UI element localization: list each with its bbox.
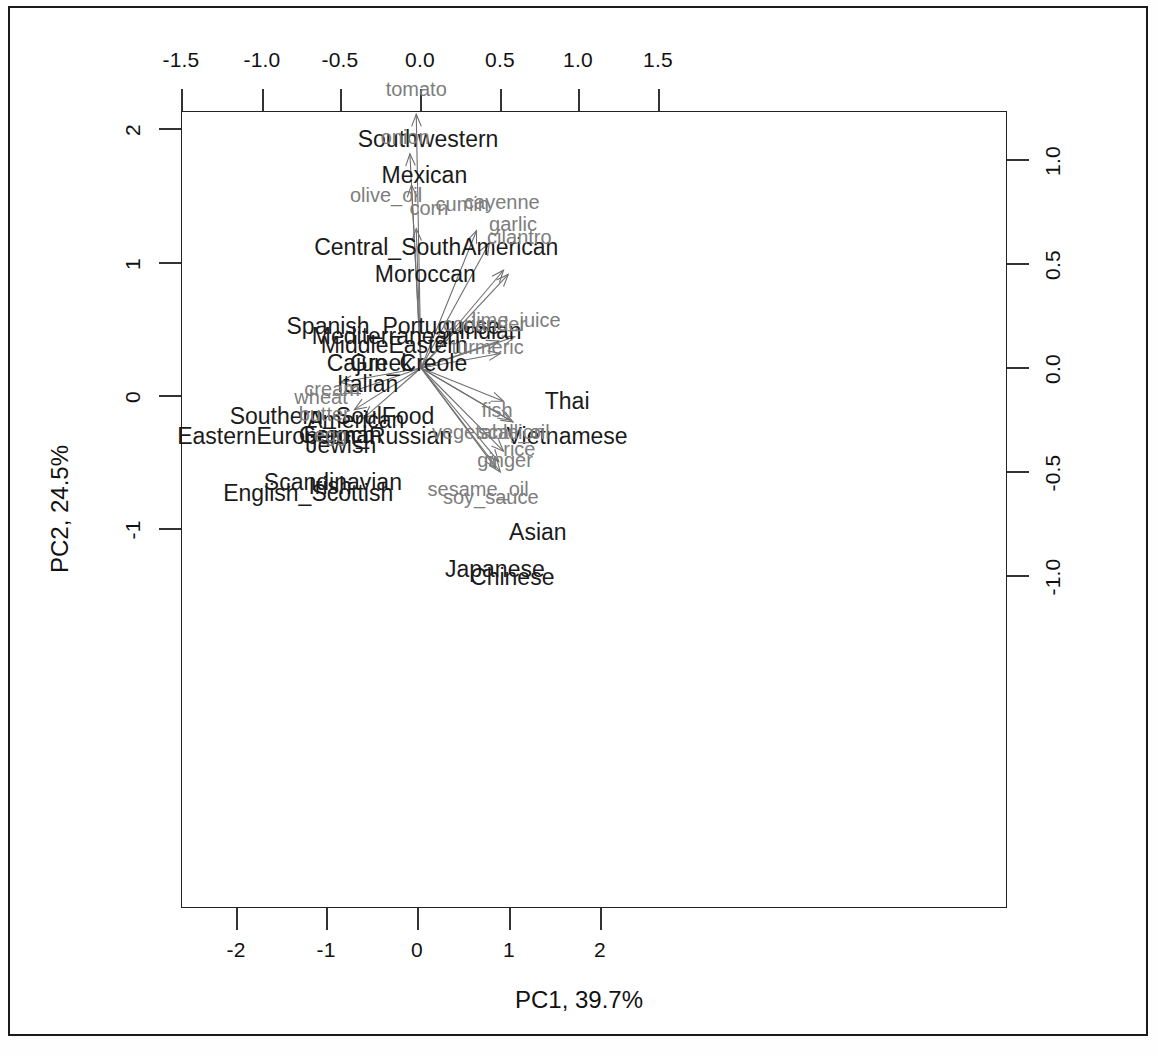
- cuisine-label: Chinese: [470, 565, 554, 588]
- ingredient-label: lime_juice: [472, 310, 561, 330]
- ingredient-label: butter: [299, 404, 350, 424]
- bottom-tick-label: 1: [503, 938, 515, 962]
- left-tick: [159, 528, 181, 530]
- left-tick: [159, 128, 181, 130]
- ingredient-label: egg: [314, 425, 347, 445]
- top-tick-label: -0.5: [322, 48, 359, 72]
- right-tick: [1007, 367, 1029, 369]
- top-tick-label: 0.0: [405, 48, 435, 72]
- right-tick: [1007, 159, 1029, 161]
- top-tick: [340, 89, 342, 111]
- cuisine-label: Thai: [545, 390, 590, 413]
- bottom-tick: [509, 908, 511, 930]
- left-tick: [159, 395, 181, 397]
- top-tick: [658, 89, 660, 111]
- top-tick: [500, 89, 502, 111]
- bottom-tick-label: 0: [411, 938, 423, 962]
- bottom-tick-label: -2: [226, 938, 245, 962]
- figure-page: -1.5 -1.0 -0.5 0.0 0.5 1.0 1.5 -2 -1 0 1…: [0, 0, 1158, 1056]
- y-axis-title: PC2, 24.5%: [46, 419, 74, 599]
- right-tick-label: -0.5: [1041, 451, 1065, 495]
- x-axis-title: PC1, 39.7%: [515, 986, 643, 1014]
- left-tick: [159, 262, 181, 264]
- ingredient-label: tomato: [386, 79, 447, 99]
- bottom-tick: [600, 908, 602, 930]
- bottom-tick: [326, 908, 328, 930]
- ingredient-label: onion: [381, 127, 430, 147]
- left-tick-label: 2: [121, 115, 145, 145]
- cuisine-label: Moroccan: [375, 262, 476, 285]
- loading-vector-arrowhead: [497, 274, 509, 286]
- bottom-tick-label: -1: [316, 938, 335, 962]
- loading-vector-arrowhead: [492, 270, 503, 282]
- top-tick: [262, 89, 264, 111]
- top-tick-label: -1.5: [163, 48, 200, 72]
- ingredient-label: soy_sauce: [443, 487, 539, 507]
- bottom-tick-label: 2: [594, 938, 606, 962]
- ingredient-label: cayenne: [464, 192, 540, 212]
- right-tick-label: -1.0: [1041, 555, 1065, 599]
- cuisine-label: Mexican: [382, 164, 468, 187]
- ingredient-label: turmeric: [452, 337, 524, 357]
- right-tick: [1007, 575, 1029, 577]
- ingredient-label: fish: [482, 400, 513, 420]
- top-tick-label: 1.0: [563, 48, 593, 72]
- ingredient-label: cilantro: [487, 227, 551, 247]
- top-tick-label: 0.5: [485, 48, 515, 72]
- right-tick-label: 0.0: [1041, 347, 1065, 391]
- top-tick-label: -1.0: [244, 48, 281, 72]
- cuisine-label: English_Scottish: [223, 482, 393, 505]
- plot-panel: SouthwesternMexicanCentral_SouthAmerican…: [181, 111, 1007, 908]
- right-tick: [1007, 471, 1029, 473]
- ingredient-label: rice: [503, 439, 535, 459]
- top-tick-label: 1.5: [643, 48, 673, 72]
- cuisine-label: Asian: [509, 520, 567, 543]
- right-tick-label: 0.5: [1041, 243, 1065, 287]
- bottom-tick: [236, 908, 238, 930]
- loading-vector-arrowhead: [412, 114, 422, 126]
- loading-vectors: [182, 112, 1008, 909]
- left-tick-label: 0: [121, 382, 145, 412]
- bottom-tick: [417, 908, 419, 930]
- left-tick-label: 1: [121, 249, 145, 279]
- right-tick-label: 1.0: [1041, 139, 1065, 183]
- top-tick: [181, 89, 183, 111]
- top-tick: [578, 89, 580, 111]
- left-tick-label: -1: [121, 515, 145, 545]
- right-tick: [1007, 263, 1029, 265]
